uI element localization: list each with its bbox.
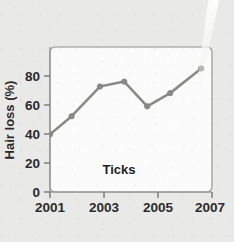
- data-point-marker: [167, 90, 172, 95]
- x-tick-label-2007: 2007: [195, 200, 225, 215]
- y-tick-label-60: 60: [25, 98, 40, 113]
- data-point-marker: [145, 104, 150, 109]
- y-axis-title: Hair loss (%): [2, 81, 17, 160]
- y-tick-label-0: 0: [32, 185, 40, 200]
- data-point-marker: [97, 84, 102, 89]
- chart-page: 0 20 40 60 80 Hair loss (%) 2001 2003 20…: [0, 0, 234, 242]
- plot-annotation-ticks: Ticks: [102, 162, 135, 177]
- y-tick-label-40: 40: [25, 127, 40, 142]
- y-tick-label-20: 20: [25, 156, 40, 171]
- x-tick-label-2003: 2003: [89, 200, 120, 215]
- data-point-marker: [122, 79, 127, 84]
- x-tick-label-2005: 2005: [143, 200, 174, 215]
- y-tick-label-80: 80: [25, 69, 40, 84]
- data-point-marker: [69, 114, 74, 119]
- x-tick-label-2001: 2001: [35, 200, 66, 215]
- hair-loss-line-chart: 0 20 40 60 80 Hair loss (%) 2001 2003 20…: [0, 0, 234, 242]
